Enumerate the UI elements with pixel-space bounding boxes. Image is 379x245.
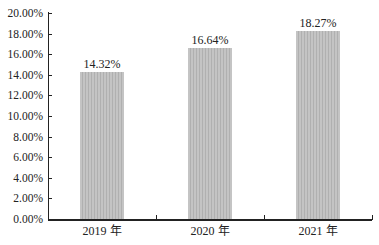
x-axis [48,219,372,221]
x-tick-mark [264,215,265,220]
y-tick-label: 4.00% [0,172,43,184]
bar [80,72,124,219]
y-tick-label: 18.00% [0,28,43,40]
bar-value-label: 14.32% [62,58,142,71]
x-category-label: 2021 年 [278,225,358,238]
y-tick-label: 16.00% [0,48,43,60]
y-tick-label: 14.00% [0,69,43,81]
y-tick-label: 8.00% [0,131,43,143]
x-tick-mark [156,215,157,220]
y-tick-label: 10.00% [0,110,43,122]
y-tick-label: 2.00% [0,192,43,204]
y-tick-label: 6.00% [0,151,43,163]
bar [188,48,232,219]
x-category-label: 2020 年 [170,225,250,238]
x-tick-mark [372,215,373,220]
y-tick-label: 12.00% [0,89,43,101]
y-tick-label: 20.00% [0,7,43,19]
bar-chart: 0.00%2.00%4.00%6.00%8.00%10.00%12.00%14.… [0,0,379,245]
bar-value-label: 18.27% [278,17,358,30]
bar-value-label: 16.64% [170,34,250,47]
bar [296,31,340,219]
y-tick-label: 0.00% [0,213,43,225]
y-axis [48,12,49,220]
x-category-label: 2019 年 [62,225,142,238]
